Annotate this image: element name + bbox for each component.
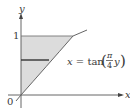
y-axis-label: y — [18, 3, 25, 14]
fraction-numerator: π — [106, 51, 113, 60]
equation-lhs: x = tan — [67, 56, 104, 67]
region-diagram: y x 0 1 x = tan ( π 4 y ) — [0, 0, 130, 112]
curve-equation-label: x = tan ( π 4 y ) — [67, 51, 126, 70]
left-paren: ( — [101, 52, 107, 70]
x-axis-arrow-icon — [118, 93, 124, 97]
equation-var: y — [113, 56, 120, 67]
origin-label: 0 — [7, 96, 13, 107]
right-paren: ) — [120, 52, 126, 70]
fraction-denominator: 4 — [107, 61, 112, 70]
x-axis-label: x — [125, 89, 130, 100]
y-tick-one-label: 1 — [13, 30, 19, 41]
